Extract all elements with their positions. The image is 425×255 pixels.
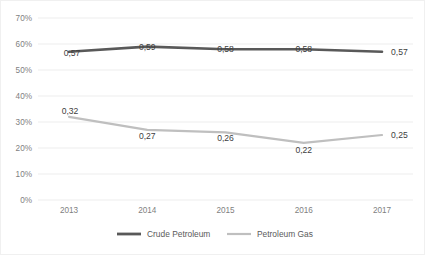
y-axis-tick-label: 30% [16,118,32,127]
y-axis-tick-label: 10% [16,170,32,179]
chart-canvas: 0%10%20%30%40%50%60%70% 2013201420152016… [1,1,425,255]
y-axis-tick-label: 60% [16,40,32,49]
y-axis-tick-label: 70% [16,14,32,23]
x-axis-tick-label: 2015 [216,206,235,215]
legend: Crude PetroleumPetroleum Gas [117,229,313,239]
data-label: 0,59 [139,42,156,52]
x-axis-tick-label: 2016 [295,206,314,215]
y-axis-tick-label: 40% [16,92,32,101]
data-label: 0,58 [217,44,234,54]
y-axis-tick-label: 20% [16,144,32,153]
data-label: 0,57 [391,47,408,57]
x-axis-tick-label: 2014 [138,206,157,215]
x-axis-tick-label: 2013 [60,206,79,215]
data-label: 0,32 [62,106,79,116]
legend-label-1[interactable]: Crude Petroleum [147,229,210,239]
x-axis-tick-label: 2017 [373,206,392,215]
y-axis-tick-labels: 0%10%20%30%40%50%60%70% [16,14,32,205]
data-label: 0,27 [139,131,156,141]
x-axis-tick-labels: 20132014201520162017 [60,206,392,215]
y-axis-tick-label: 0% [20,196,32,205]
line-chart: 0%10%20%30%40%50%60%70% 2013201420152016… [0,0,425,255]
data-label: 0,25 [391,130,408,140]
data-label: 0,22 [295,145,312,155]
legend-label-2[interactable]: Petroleum Gas [257,229,313,239]
data-label: 0,58 [295,44,312,54]
data-label: 0,57 [64,48,81,58]
y-axis-tick-label: 50% [16,66,32,75]
data-label: 0,26 [217,133,234,143]
series-line-group [69,47,382,143]
